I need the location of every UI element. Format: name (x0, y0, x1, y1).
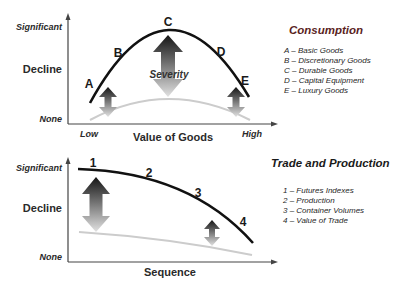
bottom-y-label-none: None (40, 252, 63, 262)
top-x-axis-title: Value of Goods (133, 131, 213, 143)
top-y-axis-title: Decline (23, 63, 62, 75)
bottom-x-axis-title: Sequence (144, 266, 196, 278)
consumption-legend: Consumption A – Basic Goods B – Discreti… (283, 24, 371, 95)
double-arrow-icon (204, 220, 220, 246)
trade-production-chart: Significant Decline None Sequence 1 2 3 … (16, 156, 390, 278)
severity-double-arrow-icon (153, 35, 183, 97)
top-y-label-significant: Significant (16, 22, 63, 32)
x-axis-arrow-icon (271, 122, 278, 127)
point-label-3: 3 (195, 186, 202, 200)
severity-label: Severity (150, 69, 189, 80)
legend-item: 3 – Container Volumes (283, 206, 364, 215)
point-label-4: 4 (240, 215, 247, 229)
legend-item: 4 – Value of Trade (283, 216, 348, 225)
trade-production-legend: Trade and Production 1 – Futures Indexes… (271, 157, 390, 225)
y-axis-arrow-icon (66, 13, 71, 20)
double-arrow-icon (227, 87, 245, 117)
point-label-d: D (217, 45, 226, 59)
double-arrow-icon (82, 177, 110, 232)
point-label-a: A (85, 77, 94, 91)
legend-title-consumption: Consumption (289, 24, 363, 36)
y-axis-arrow-icon (66, 157, 71, 164)
legend-item: C – Durable Goods (284, 66, 352, 75)
consumption-chart: Significant Decline None Low Value of Go… (16, 13, 371, 143)
legend-item: 2 – Production (282, 196, 335, 205)
point-label-e: E (241, 74, 249, 88)
top-x-label-low: Low (80, 129, 99, 139)
bottom-y-axis-title: Decline (23, 202, 62, 214)
bottom-baseline-curve (79, 232, 252, 255)
point-label-c: C (164, 15, 173, 29)
double-arrow-icon (99, 87, 117, 117)
legend-title-trade: Trade and Production (271, 157, 390, 169)
legend-item: B – Discretionary Goods (284, 56, 371, 65)
top-x-label-high: High (242, 129, 262, 139)
top-y-label-none: None (40, 114, 63, 124)
point-label-1: 1 (90, 156, 97, 170)
diagram-canvas: Significant Decline None Low Value of Go… (0, 0, 397, 291)
bottom-y-label-significant: Significant (16, 163, 63, 173)
point-label-2: 2 (146, 166, 153, 180)
legend-item: 1 – Futures Indexes (283, 186, 354, 195)
legend-item: E – Luxury Goods (284, 86, 348, 95)
legend-item: A – Basic Goods (283, 46, 343, 55)
legend-item: D – Capital Equipment (284, 76, 365, 85)
bottom-decline-curve (78, 169, 253, 243)
point-label-b: B (114, 46, 123, 60)
x-axis-arrow-icon (271, 260, 278, 265)
